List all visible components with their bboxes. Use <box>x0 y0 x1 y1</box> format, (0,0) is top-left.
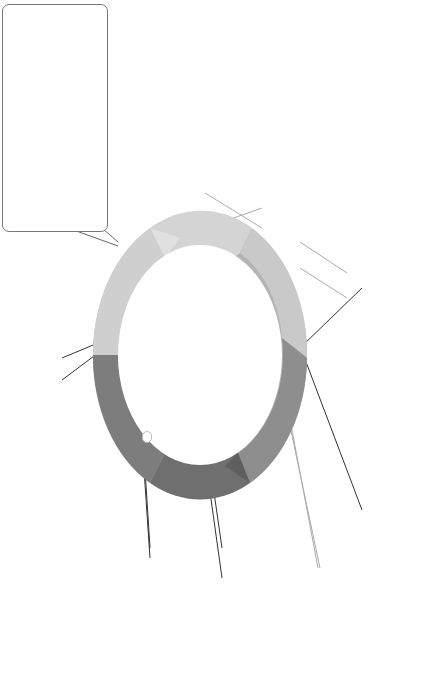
box-collect-cues <box>2 4 108 232</box>
diagram-canvas <box>0 0 440 698</box>
